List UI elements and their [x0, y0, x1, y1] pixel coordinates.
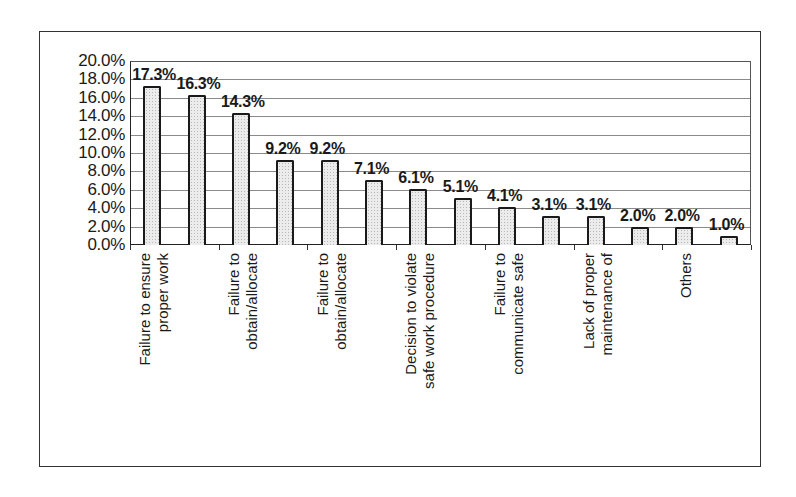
gridline — [131, 116, 750, 117]
x-category-label-line: Others — [677, 253, 695, 453]
bar — [143, 86, 161, 245]
plot-area — [130, 61, 751, 245]
x-category-label: Failure to ensureproper work — [136, 253, 172, 453]
data-label: 17.3% — [132, 67, 176, 83]
bar — [321, 160, 339, 245]
x-category-label-line: obtain/allocate — [243, 253, 261, 453]
gridline — [131, 153, 750, 154]
y-tick-label: 14.0% — [55, 107, 125, 124]
x-tick-mark — [751, 245, 752, 250]
bar — [631, 227, 649, 245]
data-label: 3.1% — [576, 197, 611, 213]
x-tick-mark — [485, 245, 486, 250]
gridline — [131, 171, 750, 172]
data-label: 4.1% — [487, 188, 522, 204]
x-category-label-line: Decision to violate — [402, 253, 420, 453]
data-label: 3.1% — [531, 197, 566, 213]
bar — [188, 95, 206, 245]
x-category-label-line: obtain/allocate — [332, 253, 350, 453]
x-category-label: Others — [677, 253, 695, 453]
x-category-label-line: communicate safe — [509, 253, 527, 453]
x-category-label: Failure toobtain/allocate — [314, 253, 350, 453]
y-tick-label: 8.0% — [55, 162, 125, 179]
x-category-label-line: proper work — [154, 253, 172, 453]
gridline — [131, 227, 750, 228]
data-label: 5.1% — [443, 179, 478, 195]
x-category-label-line: Failure to — [491, 253, 509, 453]
x-category-label: Lack of propermaintenance of — [580, 253, 616, 453]
bar — [365, 180, 383, 245]
data-label: 7.1% — [354, 161, 389, 177]
x-tick-mark — [662, 245, 663, 250]
y-tick-label: 0.0% — [55, 236, 125, 253]
x-tick-mark — [574, 245, 575, 250]
gridline — [131, 190, 750, 191]
bar — [276, 160, 294, 245]
data-label: 2.0% — [620, 208, 655, 224]
y-tick-label: 2.0% — [55, 218, 125, 235]
data-label: 9.2% — [265, 141, 300, 157]
bar — [232, 113, 250, 245]
bar — [675, 227, 693, 245]
x-tick-mark — [396, 245, 397, 250]
x-category-label: Failure toobtain/allocate — [225, 253, 261, 453]
y-tick-label: 10.0% — [55, 144, 125, 161]
x-category-label-line: Failure to — [225, 253, 243, 453]
bar — [409, 189, 427, 245]
data-label: 9.2% — [310, 141, 345, 157]
x-tick-mark — [307, 245, 308, 250]
bar — [542, 216, 560, 245]
data-label: 16.3% — [177, 76, 221, 92]
x-tick-mark — [219, 245, 220, 250]
data-label: 1.0% — [709, 217, 744, 233]
x-category-label-line: safe work procedure — [420, 253, 438, 453]
bar — [498, 207, 516, 245]
bar — [587, 216, 605, 245]
bar — [720, 236, 738, 245]
x-category-label-line: maintenance of — [598, 253, 616, 453]
bar — [454, 198, 472, 245]
data-label: 14.3% — [221, 94, 265, 110]
data-label: 6.1% — [398, 170, 433, 186]
gridline — [131, 135, 750, 136]
gridline — [131, 79, 750, 80]
y-tick-label: 16.0% — [55, 89, 125, 106]
y-tick-label: 6.0% — [55, 181, 125, 198]
gridline — [131, 208, 750, 209]
y-tick-label: 20.0% — [55, 52, 125, 69]
x-category-label: Decision to violatesafe work procedure — [402, 253, 438, 453]
y-tick-label: 18.0% — [55, 70, 125, 87]
x-category-label: Failure tocommunicate safe — [491, 253, 527, 453]
x-tick-mark — [130, 245, 131, 250]
y-tick-label: 12.0% — [55, 126, 125, 143]
data-label: 2.0% — [664, 208, 699, 224]
x-category-label-line: Failure to — [314, 253, 332, 453]
y-tick-label: 4.0% — [55, 199, 125, 216]
x-category-label-line: Failure to ensure — [136, 253, 154, 453]
x-category-label-line: Lack of proper — [580, 253, 598, 453]
